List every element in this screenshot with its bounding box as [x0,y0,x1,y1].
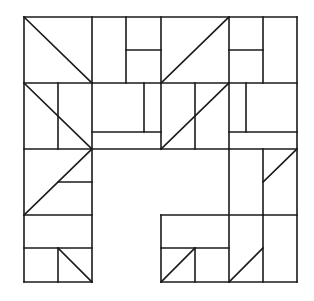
diagonal-line [229,248,263,282]
diagonal-line [263,149,297,182]
diagonal-line [24,17,92,83]
diagonal-line [161,248,195,282]
geometric-line-diagram [0,0,314,301]
diagonal-line [58,248,92,282]
diagonal-line [161,17,229,83]
diagram-segments [24,17,297,282]
